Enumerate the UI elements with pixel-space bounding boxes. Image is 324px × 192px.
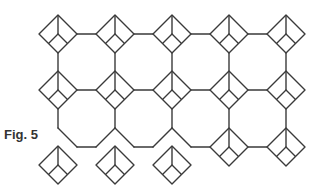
octagon-square-tiling <box>0 0 324 192</box>
figure-label: Fig. 5 <box>4 127 38 142</box>
square-tile <box>96 71 134 109</box>
square-tile <box>210 71 248 109</box>
square-tile <box>267 15 305 53</box>
octagon-edge <box>96 128 115 147</box>
square-tile <box>210 15 248 53</box>
square-tile <box>210 128 248 166</box>
square-tile <box>39 15 77 53</box>
square-tile <box>267 128 305 166</box>
figure-canvas: Fig. 5 <box>0 0 324 192</box>
octagon-edge <box>153 128 172 147</box>
octagon-edge <box>58 128 77 147</box>
loose-square-tile <box>153 146 191 184</box>
square-tile <box>96 15 134 53</box>
square-tile <box>153 15 191 53</box>
square-tile <box>39 71 77 109</box>
octagon-edge <box>172 128 191 147</box>
loose-square-tile <box>96 146 134 184</box>
square-tile <box>153 71 191 109</box>
octagon-edge <box>115 128 134 147</box>
square-tile <box>267 71 305 109</box>
loose-square-tile <box>39 146 77 184</box>
